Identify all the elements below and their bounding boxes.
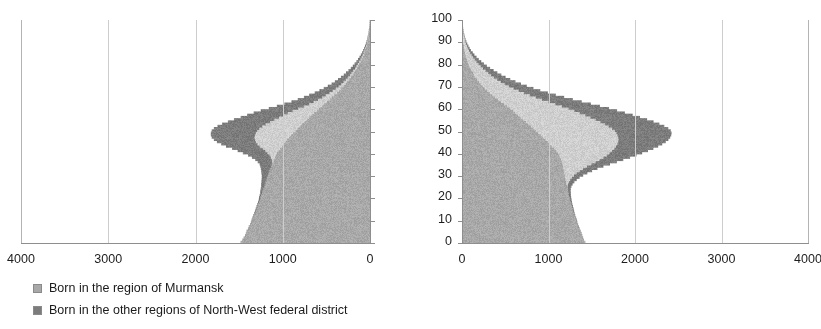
legend-clip: Born in the region of Murmansk Born in t…	[0, 276, 821, 329]
y-tick-females	[458, 109, 463, 110]
population-pyramid-figure: 4000300020001000001000200030004000100908…	[0, 0, 821, 329]
x-tick-label: 1000	[243, 252, 323, 266]
gridline	[549, 20, 550, 243]
x-axis-males	[21, 243, 371, 244]
y-tick-label: 70	[400, 78, 452, 92]
x-tick-label: 2000	[595, 252, 675, 266]
y-tick-label: 30	[400, 167, 452, 181]
y-tick-label: 40	[400, 145, 452, 159]
legend-item: Born in the other regions of North-West …	[33, 302, 348, 319]
chart-legend: Born in the region of Murmansk Born in t…	[0, 276, 821, 329]
legend-swatch-icon	[33, 284, 42, 293]
legend-swatch-icon	[33, 306, 42, 315]
y-tick-males	[371, 87, 375, 88]
y-tick-label: 60	[400, 100, 452, 114]
legend-item: Born in the region of Murmansk	[33, 280, 223, 297]
legend-label: Born in the other regions of North-West …	[49, 302, 348, 319]
y-tick-females	[458, 132, 463, 133]
y-tick-males	[371, 243, 375, 244]
x-tick-label: 0	[330, 252, 410, 266]
gridline	[635, 20, 636, 243]
x-tick-label: 0	[422, 252, 502, 266]
x-tick-label: 3000	[682, 252, 762, 266]
gridline	[283, 20, 284, 243]
y-tick-label: 0	[400, 234, 452, 248]
x-tick-label: 4000	[768, 252, 821, 266]
y-tick-females	[458, 243, 463, 244]
y-tick-females	[458, 198, 463, 199]
y-tick-females	[458, 154, 463, 155]
legend-label: Born in the region of Murmansk	[49, 280, 223, 297]
y-tick-males	[371, 154, 375, 155]
y-tick-males	[371, 42, 375, 43]
y-tick-label: 10	[400, 212, 452, 226]
y-tick-males	[371, 20, 375, 21]
y-tick-males	[371, 176, 375, 177]
y-tick-males	[371, 132, 375, 133]
axis-right-frame	[808, 20, 809, 243]
x-tick-label: 1000	[509, 252, 589, 266]
y-tick-females	[458, 42, 463, 43]
x-axis-females	[462, 243, 809, 244]
axis-left-frame	[21, 20, 22, 243]
x-tick-label: 2000	[156, 252, 236, 266]
x-tick-label: 4000	[0, 252, 61, 266]
x-tick-label: 3000	[68, 252, 148, 266]
y-tick-females	[458, 221, 463, 222]
y-tick-males	[371, 221, 375, 222]
y-tick-label: 80	[400, 56, 452, 70]
y-tick-males	[371, 198, 375, 199]
y-tick-males	[371, 65, 375, 66]
gridline	[108, 20, 109, 243]
gridline	[722, 20, 723, 243]
y-tick-females	[458, 20, 463, 21]
y-tick-males	[371, 109, 375, 110]
y-tick-label: 100	[400, 11, 452, 25]
y-tick-label: 50	[400, 123, 452, 137]
y-tick-label: 20	[400, 189, 452, 203]
gridline	[196, 20, 197, 243]
y-tick-label: 90	[400, 33, 452, 47]
y-tick-females	[458, 65, 463, 66]
y-tick-females	[458, 87, 463, 88]
y-tick-females	[458, 176, 463, 177]
